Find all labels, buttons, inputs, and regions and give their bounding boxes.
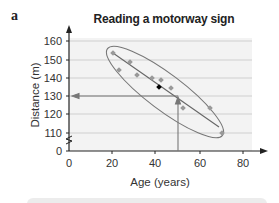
svg-text:0: 0 (56, 145, 62, 157)
plot-area (69, 38, 252, 151)
svg-text:160: 160 (44, 35, 62, 47)
svg-text:40: 40 (149, 157, 161, 169)
y-axis-label: Distance (m) (29, 62, 41, 127)
y-axis: 160 150 140 130 120 110 0 Distance (m) (29, 25, 72, 157)
x-axis: 0 20 40 60 80 Age (years) (66, 148, 268, 188)
x-axis-arrow-icon (260, 148, 268, 154)
y-axis-arrow-icon (66, 25, 72, 33)
scatter-plot: 160 150 140 130 120 110 0 Distance (m) 0… (0, 0, 279, 203)
svg-text:60: 60 (194, 157, 206, 169)
svg-text:120: 120 (44, 108, 62, 120)
svg-text:150: 150 (44, 54, 62, 66)
svg-text:20: 20 (106, 157, 118, 169)
svg-text:140: 140 (44, 72, 62, 84)
svg-text:80: 80 (237, 157, 249, 169)
svg-text:0: 0 (66, 157, 72, 169)
x-axis-label: Age (years) (130, 176, 190, 188)
svg-text:110: 110 (44, 127, 62, 139)
caption-box (27, 198, 267, 203)
svg-text:130: 130 (44, 90, 62, 102)
